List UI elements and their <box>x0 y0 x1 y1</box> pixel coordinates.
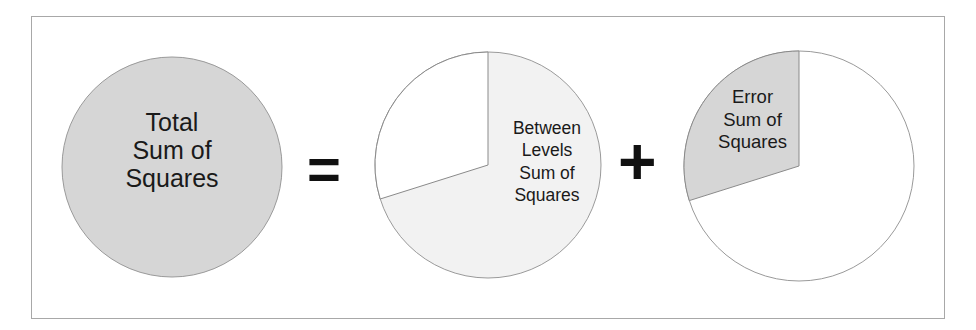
error-ss-label: Error Sum of Squares <box>705 86 800 154</box>
label-line: Total <box>112 108 232 136</box>
plus-sign: + <box>618 128 657 194</box>
label-line: Squares <box>705 131 800 154</box>
between-ss-label: Between Levels Sum of Squares <box>497 117 597 207</box>
label-line: Sum of <box>497 162 597 184</box>
label-line: Squares <box>497 184 597 206</box>
label-line: Levels <box>497 139 597 161</box>
label-line: Error <box>705 86 800 109</box>
total-ss-label: Total Sum of Squares <box>112 108 232 192</box>
equals-sign: = <box>307 140 341 198</box>
label-line: Sum of <box>112 136 232 164</box>
label-line: Squares <box>112 164 232 192</box>
label-line: Between <box>497 117 597 139</box>
label-line: Sum of <box>705 109 800 132</box>
